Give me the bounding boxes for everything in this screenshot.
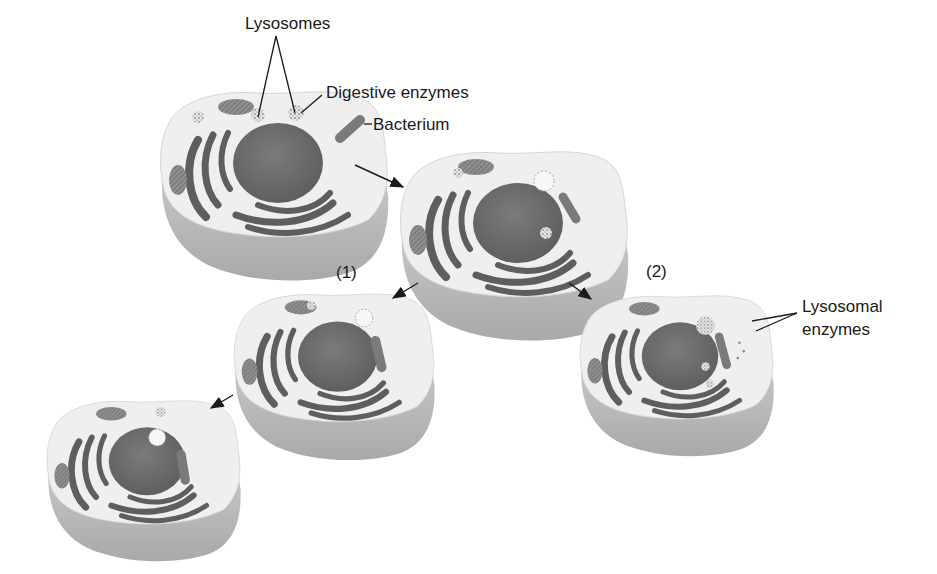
diagram-canvas: Lysosomes Digestive enzymes Bacterium (1… bbox=[0, 0, 937, 574]
label-pathway-1: (1) bbox=[336, 263, 357, 283]
cell-pathway-1b bbox=[47, 401, 241, 561]
label-lysosomal-enzymes-line1: Lysosomal bbox=[802, 297, 883, 317]
label-bacterium: Bacterium bbox=[373, 115, 450, 135]
cell-pathway-2 bbox=[580, 296, 774, 456]
label-lysosomal-enzymes-line2: enzymes bbox=[802, 320, 870, 340]
cell-engulfing bbox=[401, 152, 629, 341]
label-lysosomes: Lysosomes bbox=[245, 14, 330, 34]
cell-pathway-1a bbox=[234, 294, 434, 460]
label-pathway-2: (2) bbox=[646, 262, 667, 282]
label-digestive-enzymes: Digestive enzymes bbox=[326, 83, 469, 103]
